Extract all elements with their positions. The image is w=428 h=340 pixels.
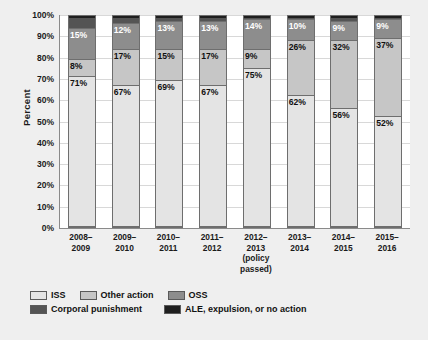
bar-segment[interactable]: 17% [113, 50, 139, 86]
legend-swatch-icon [30, 305, 47, 314]
x-tick-label-line: 2015 [322, 243, 366, 254]
legend-label: Other action [101, 290, 154, 300]
segment-value-label: 67% [114, 87, 131, 97]
bar-segment[interactable]: 9% [244, 50, 270, 69]
segment-value-label: 15% [157, 51, 174, 61]
bar-segment[interactable]: 67% [113, 86, 139, 227]
segment-value-label: 62% [289, 97, 306, 107]
segment-value-label: 9% [376, 21, 388, 31]
bar-segment[interactable]: 9% [375, 20, 401, 39]
bar-segment[interactable]: 14% [244, 20, 270, 50]
segment-value-label: 26% [289, 42, 306, 52]
y-tick-label: 80% [20, 53, 54, 63]
legend-label: ISS [51, 290, 66, 300]
segment-value-label: 71% [70, 78, 87, 88]
bar-segment[interactable]: 13% [156, 22, 182, 49]
x-tick-label-line: 2009– [103, 232, 147, 243]
bar-segment[interactable]: 15% [69, 29, 95, 61]
x-tick-label-line: 2009 [59, 243, 103, 254]
segment-value-label: 67% [201, 87, 218, 97]
bar-segment[interactable]: 32% [331, 41, 357, 109]
bar-segment[interactable]: 75% [244, 69, 270, 227]
x-tick-label-line: 2010 [103, 243, 147, 254]
bar-segment[interactable]: 8% [69, 60, 95, 77]
y-tick-label: 50% [20, 117, 54, 127]
x-axis-tick-labels: 2008–20092009–20102010–20112011–20122012… [59, 232, 409, 292]
x-tick-label-line: 2015– [365, 232, 409, 243]
x-tick-label: 2014–2015 [322, 232, 366, 292]
x-tick-label: 2010–2011 [147, 232, 191, 292]
x-tick-label-line: 2016 [365, 243, 409, 254]
segment-value-label: 75% [245, 70, 262, 80]
stacked-bar[interactable]: 13%17%67% [199, 15, 227, 228]
legend-item[interactable]: Other action [80, 290, 154, 300]
segment-value-label: 10% [289, 21, 306, 31]
stacked-bar[interactable]: 9%32%56% [330, 15, 358, 228]
bar-segment[interactable]: 10% [288, 20, 314, 41]
bar-segment[interactable]: 15% [156, 50, 182, 82]
bar-segment[interactable]: 62% [288, 96, 314, 227]
bar-segment[interactable]: 56% [331, 109, 357, 227]
stacked-bar-chart: Percent 100%90%80%70%60%50%40%30%20%10%0… [8, 6, 420, 334]
stacked-bar[interactable]: 15%8%71% [68, 15, 96, 228]
segment-value-label: 9% [245, 51, 257, 61]
legend-row-primary: ISSOther actionOSS [30, 290, 418, 300]
y-tick-label: 40% [20, 138, 54, 148]
bar-segment[interactable]: 71% [69, 77, 95, 227]
bar-segment[interactable]: 12% [113, 24, 139, 49]
bar-segment[interactable]: 67% [200, 86, 226, 227]
legend-item[interactable]: Corporal punishment [30, 304, 142, 314]
bar-segment[interactable]: 26% [288, 41, 314, 96]
stacked-bar[interactable]: 12%17%67% [112, 15, 140, 228]
x-tick-label-line: 2011 [147, 243, 191, 254]
x-tick-label: 2013–2014 [278, 232, 322, 292]
x-tick-label-line: 2013 [234, 243, 278, 254]
x-tick-label-line: 2014– [322, 232, 366, 243]
segment-value-label: 52% [376, 118, 393, 128]
x-tick-label-line: 2014 [278, 243, 322, 254]
segment-value-label: 15% [70, 30, 87, 40]
legend-item[interactable]: OSS [168, 290, 208, 300]
segment-value-label: 9% [332, 23, 344, 33]
bar-segment[interactable]: 13% [200, 22, 226, 49]
x-tick-label: 2011–2012 [190, 232, 234, 292]
legend-swatch-icon [168, 291, 185, 300]
y-tick-label: 60% [20, 95, 54, 105]
x-tick-label: 2009–2010 [103, 232, 147, 292]
legend-swatch-icon [80, 291, 97, 300]
stacked-bar[interactable]: 9%37%52% [374, 15, 402, 228]
y-tick-label: 20% [20, 180, 54, 190]
y-tick-label: 10% [20, 202, 54, 212]
bar-segment[interactable] [69, 18, 95, 29]
x-tick-label-line: 2013– [278, 232, 322, 243]
segment-value-label: 32% [332, 42, 349, 52]
segment-value-label: 8% [70, 61, 82, 71]
stacked-bar[interactable]: 13%15%69% [155, 15, 183, 228]
legend-item[interactable]: ISS [30, 290, 66, 300]
x-tick-label-line: (policy [234, 253, 278, 264]
stacked-bar[interactable]: 10%26%62% [287, 15, 315, 228]
legend-swatch-icon [164, 305, 181, 314]
y-tick-label: 70% [20, 74, 54, 84]
legend-label: Corporal punishment [51, 304, 142, 314]
segment-value-label: 17% [201, 51, 218, 61]
x-tick-label-line: passed) [234, 264, 278, 275]
segment-value-label: 13% [157, 23, 174, 33]
bar-segment[interactable]: 9% [331, 22, 357, 41]
bar-segment[interactable]: 17% [200, 50, 226, 86]
legend-label: OSS [189, 290, 208, 300]
bar-segment[interactable]: 52% [375, 117, 401, 227]
bar-segment[interactable]: 69% [156, 81, 182, 227]
segment-value-label: 37% [376, 40, 393, 50]
legend-swatch-icon [30, 291, 47, 300]
bar-segment[interactable]: 37% [375, 39, 401, 117]
segment-value-label: 13% [201, 23, 218, 33]
x-tick-label-line: 2011– [190, 232, 234, 243]
bar-group: 15%8%71%12%17%67%13%15%69%13%17%67%14%9%… [60, 15, 410, 228]
y-tick-label: 0% [20, 223, 54, 233]
legend-item[interactable]: ALE, expulsion, or no action [164, 304, 307, 314]
legend-row-secondary: Corporal punishmentALE, expulsion, or no… [30, 304, 418, 314]
x-tick-label-line: 2008– [59, 232, 103, 243]
stacked-bar[interactable]: 14%9%75% [243, 15, 271, 228]
plot-area: 15%8%71%12%17%67%13%15%69%13%17%67%14%9%… [59, 15, 410, 229]
